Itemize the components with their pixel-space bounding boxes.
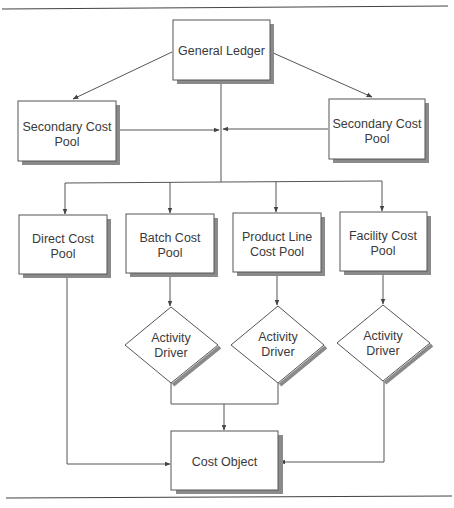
node-cost-object: Cost Object [171,431,283,494]
node-activity-driver-product-line: Activity Driver [231,306,326,385]
direct-line1: Direct Cost [32,232,94,246]
edge-distribution-bar [65,181,382,183]
secondary-left-line2: Pool [54,135,79,149]
secondary-right-line2: Pool [364,132,389,146]
node-facility-cost-pool: Facility Cost Pool [340,212,431,275]
driver-facility-line2: Driver [366,344,399,358]
node-secondary-cost-pool-left: Secondary Cost Pool [18,101,120,165]
product-line-line1: Product Line [242,230,312,244]
node-activity-driver-batch: Activity Driver [125,307,220,385]
node-direct-cost-pool: Direct Cost Pool [19,215,111,278]
direct-line2: Pool [50,247,75,261]
facility-line1: Facility Cost [349,229,418,243]
secondary-left-line1: Secondary Cost [23,120,112,134]
secondary-right-line1: Secondary Cost [333,117,422,131]
driver-facility-line1: Activity [363,329,403,343]
edge-drivers-merge [171,383,278,404]
driver-batch-line2: Driver [154,346,187,360]
bottom-rule [6,496,452,498]
node-secondary-cost-pool-right: Secondary Cost Pool [329,99,429,163]
node-general-ledger: General Ledger [173,20,274,84]
cost-allocation-diagram: General Ledger Secondary Cost Pool Secon… [0,0,454,508]
node-activity-driver-facility: Activity Driver [337,305,432,383]
general-ledger-label: General Ledger [178,44,265,58]
driver-product-line1: Activity [258,330,298,344]
edge-gl-to-secondary-right [271,52,372,97]
edge-facility-driver-to-cost-object [280,381,384,462]
node-batch-cost-pool: Batch Cost Pool [126,214,218,277]
batch-line1: Batch Cost [139,231,201,245]
facility-line2: Pool [370,244,395,258]
driver-product-line2: Driver [261,345,294,359]
cost-object-label: Cost Object [192,455,258,469]
batch-line2: Pool [157,246,182,260]
node-product-line-cost-pool: Product Line Cost Pool [233,213,325,276]
edge-gl-to-secondary-left [73,52,172,99]
product-line-line2: Cost Pool [250,245,304,259]
top-rule [2,6,448,9]
driver-batch-line1: Activity [151,331,191,345]
